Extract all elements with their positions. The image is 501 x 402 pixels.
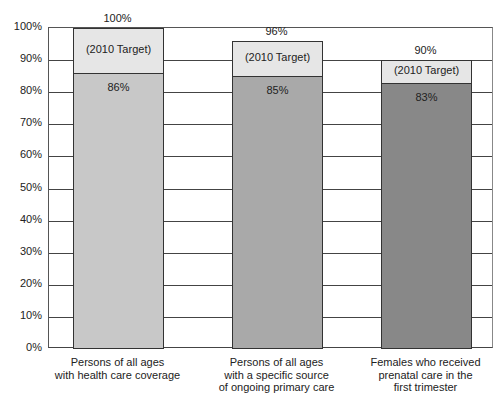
target-value-label: 100% <box>72 12 163 24</box>
target-segment-label: (2010 Target) <box>382 64 471 76</box>
actual-value-label: 83% <box>382 91 471 103</box>
target-segment-label: (2010 Target) <box>233 51 322 63</box>
y-tick-label: 30% <box>0 245 42 257</box>
target-segment: (2010 Target) <box>233 42 322 77</box>
y-tick-label: 50% <box>0 181 42 193</box>
bar: (2010 Target)85% <box>232 41 323 349</box>
actual-segment: 86% <box>74 74 163 348</box>
target-value-label: 90% <box>380 44 471 56</box>
actual-segment: 85% <box>233 77 322 348</box>
y-tick-label: 0% <box>0 341 42 353</box>
x-category-label: Persons of all ages with health care cov… <box>32 356 203 381</box>
target-segment: (2010 Target) <box>74 29 163 74</box>
y-tick-label: 20% <box>0 277 42 289</box>
bar: (2010 Target)83% <box>381 60 472 349</box>
y-tick-label: 40% <box>0 213 42 225</box>
y-tick-label: 90% <box>0 52 42 64</box>
y-tick-label: 10% <box>0 309 42 321</box>
y-tick-label: 60% <box>0 148 42 160</box>
actual-segment: 83% <box>382 84 471 348</box>
plot-area: (2010 Target)86%(2010 Target)85%(2010 Ta… <box>48 27 493 348</box>
bar: (2010 Target)86% <box>73 28 164 349</box>
target-segment: (2010 Target) <box>382 61 471 83</box>
y-tick-label: 70% <box>0 116 42 128</box>
x-category-label: Persons of all ages with a specific sour… <box>191 356 362 394</box>
actual-value-label: 86% <box>74 81 163 93</box>
x-category-label: Females who received prenatal care in th… <box>340 356 501 394</box>
actual-value-label: 85% <box>233 84 322 96</box>
target-value-label: 96% <box>231 25 322 37</box>
y-tick-label: 100% <box>0 20 42 32</box>
y-tick-label: 80% <box>0 84 42 96</box>
target-segment-label: (2010 Target) <box>74 43 163 55</box>
